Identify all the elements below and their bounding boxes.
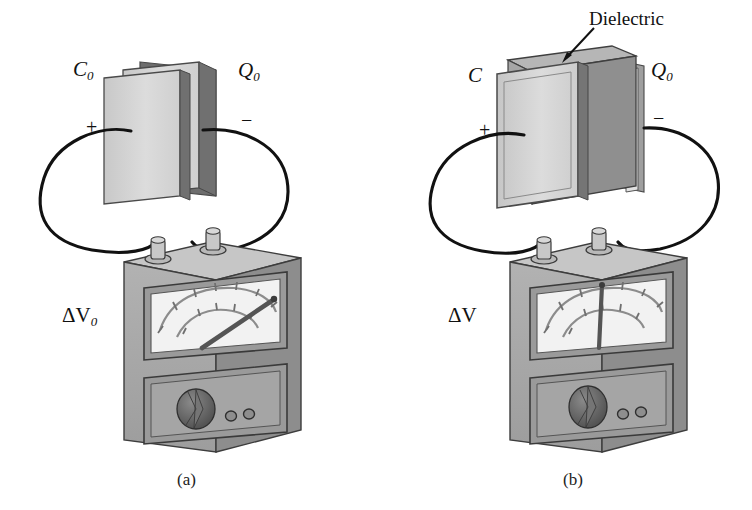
caption-b: (b) — [563, 470, 583, 490]
capacitor-front-plate — [104, 70, 190, 204]
minus-sign-b: − — [653, 108, 664, 128]
minus-sign-a: − — [241, 110, 252, 130]
caption-a: (a) — [177, 470, 196, 490]
voltmeter[interactable] — [510, 228, 687, 452]
binding-post-icon[interactable] — [200, 228, 226, 255]
panel-a-no-dielectric: C0 Q0 + − ΔV0 (a) — [0, 0, 376, 510]
panel-a-graphics — [0, 0, 376, 510]
binding-post-icon[interactable] — [531, 237, 557, 264]
panel-b-with-dielectric: Dielectric C Q0 + − ΔV (b) — [376, 0, 752, 510]
binding-post-icon[interactable] — [586, 228, 612, 255]
plus-sign-b: + — [479, 120, 490, 140]
rotary-knob-icon[interactable] — [177, 389, 215, 429]
voltmeter[interactable] — [124, 228, 301, 452]
plus-sign-a: + — [86, 117, 97, 137]
charge-label-b: Q0 — [651, 58, 673, 85]
panel-b-graphics — [376, 0, 752, 510]
capacitance-label-b: C — [468, 63, 482, 90]
binding-post-icon[interactable] — [145, 237, 171, 264]
charge-label-a: Q0 — [238, 58, 260, 85]
capacitance-label-a: C0 — [73, 57, 94, 84]
capacitor-front-plate — [497, 62, 588, 208]
rotary-knob-icon[interactable] — [569, 386, 607, 428]
voltage-label-a: ΔV0 — [62, 303, 97, 330]
voltage-label-b: ΔV — [448, 303, 477, 330]
dielectric-label: Dielectric — [589, 8, 664, 30]
